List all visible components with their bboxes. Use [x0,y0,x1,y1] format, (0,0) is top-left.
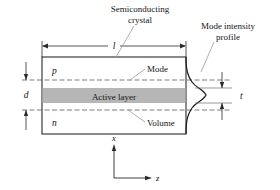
thickness-dimension: t [195,72,243,120]
gaussian-profile-path [186,57,206,134]
n-layer-label: n [52,118,57,128]
p-layer-label: p [51,66,57,76]
thickness-label: t [240,91,243,101]
length-arrowhead-right [180,44,186,49]
diagram-canvas: l d [0,0,280,190]
mode-intensity-label-line1: Mode intensity [201,21,256,31]
depth-arrowhead-lower [24,110,28,116]
semiconducting-crystal-label-line2: crystal [128,15,152,25]
mode-label: Mode [147,64,168,74]
x-axis-label: x [111,133,116,143]
mode-intensity-curve [186,57,206,134]
volume-label: Volume [147,118,175,128]
thickness-arrowhead-lower [220,103,224,109]
length-label: l [113,41,116,51]
length-dimension: l [42,39,186,57]
z-axis-arrowhead [145,176,152,180]
x-axis-arrowhead [112,144,116,151]
mode-intensity-label-line2: profile [216,32,240,42]
depth-dimension: d [24,62,29,130]
z-axis-label: z [155,173,160,183]
coordinate-axes: x z [111,133,160,183]
active-layer-label: Active layer [92,92,136,102]
leader-mode-intensity [201,42,214,72]
length-arrowhead-left [42,44,48,49]
laser-diode-diagram: l d [0,0,280,190]
depth-label: d [24,90,29,100]
thickness-arrowhead-upper [220,82,224,88]
depth-arrowhead-upper [24,74,28,80]
semiconducting-crystal-label-line1: Semiconducting [111,4,170,14]
